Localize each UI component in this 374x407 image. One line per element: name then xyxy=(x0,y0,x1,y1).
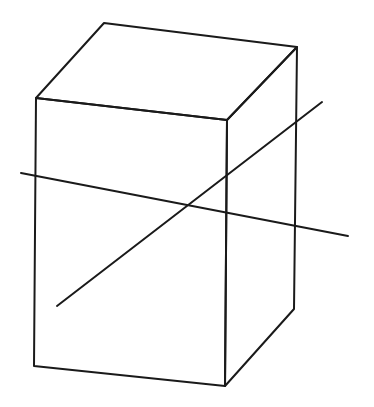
diagram-canvas xyxy=(0,0,374,407)
box-right-face xyxy=(225,47,297,386)
box-top-face xyxy=(36,23,297,120)
intersecting-lines xyxy=(21,102,348,306)
box-front-face xyxy=(34,98,227,386)
line-b xyxy=(57,102,322,306)
rectangular-prism xyxy=(34,23,297,386)
line-a xyxy=(21,173,348,236)
